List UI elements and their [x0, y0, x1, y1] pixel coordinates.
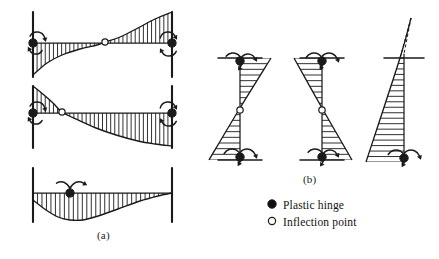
plastic-hinge-icon — [168, 39, 176, 47]
inflection-point-icon — [102, 39, 108, 45]
inflection-point-icon — [237, 107, 243, 113]
plastic-hinge-icon — [318, 57, 326, 65]
plastic-hinge-icon — [29, 39, 37, 47]
legend-plastic-hinge-icon — [268, 200, 276, 208]
legend-plastic-hinge-label: Plastic hinge — [283, 199, 344, 211]
plastic-hinge-icon — [318, 153, 326, 161]
plastic-hinge-icon — [29, 109, 37, 117]
plastic-hinge-icon — [400, 154, 408, 162]
plastic-hinge-icon — [168, 109, 176, 117]
plastic-hinge-icon — [236, 153, 244, 161]
legend-inflection-point-label: Inflection point — [283, 216, 357, 228]
panel-a-caption: (a) — [97, 229, 110, 241]
plastic-hinge-icon — [236, 57, 244, 65]
bending-moment-figure — [0, 0, 439, 259]
inflection-point-icon — [59, 109, 65, 115]
figure-background — [0, 0, 439, 259]
inflection-point-icon — [319, 107, 325, 113]
legend-inflection-point-icon — [268, 217, 275, 224]
plastic-hinge-icon — [66, 189, 74, 197]
panel-b-caption: (b) — [303, 173, 316, 185]
